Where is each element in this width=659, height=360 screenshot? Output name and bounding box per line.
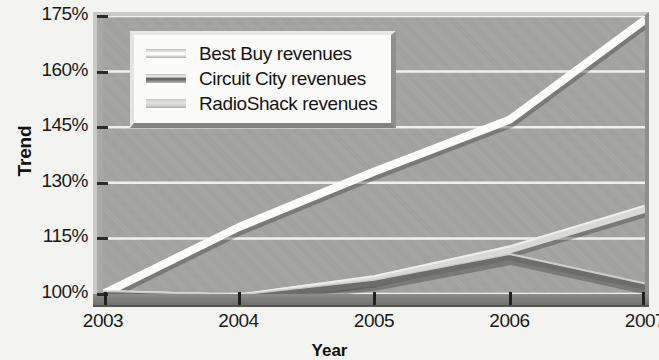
y-tick-mark xyxy=(97,126,108,129)
legend-item: Best Buy revenues xyxy=(146,41,377,66)
legend-item: Circuit City revenues xyxy=(146,66,377,91)
x-tick-mark xyxy=(238,292,241,305)
legend-swatch-icon xyxy=(146,49,186,58)
y-tick-label: 100% xyxy=(26,281,88,303)
y-tick-label: 130% xyxy=(26,170,88,192)
x-axis-bar xyxy=(93,294,649,307)
trend-line-chart: Trend 175%160%145%130%115%100% 200320042… xyxy=(0,0,659,360)
y-tick-mark xyxy=(97,15,108,18)
x-tick-label: 2006 xyxy=(465,310,555,332)
x-tick-mark xyxy=(642,292,645,305)
y-tick-label: 145% xyxy=(26,114,88,136)
legend-item: RadioShack revenues xyxy=(146,91,377,116)
legend-swatch-icon xyxy=(146,74,186,83)
x-axis-title: Year xyxy=(0,341,659,360)
chart-legend: Best Buy revenuesCircuit City revenuesRa… xyxy=(130,31,396,128)
legend-label: Circuit City revenues xyxy=(199,68,366,90)
x-tick-label: 2007 xyxy=(600,310,659,332)
legend-label: RadioShack revenues xyxy=(199,93,377,115)
y-axis-tick-labels: 175%160%145%130%115%100% xyxy=(0,0,88,360)
y-tick-label: 115% xyxy=(26,225,88,247)
x-tick-mark xyxy=(373,292,376,305)
x-tick-mark xyxy=(104,292,107,305)
legend-swatch-icon xyxy=(146,99,186,108)
y-tick-mark xyxy=(97,182,108,185)
legend-label: Best Buy revenues xyxy=(199,43,352,65)
y-tick-label: 160% xyxy=(26,59,88,81)
x-tick-label: 2004 xyxy=(194,310,284,332)
x-tick-label: 2005 xyxy=(329,310,419,332)
x-tick-mark xyxy=(509,292,512,305)
y-tick-mark xyxy=(97,237,108,240)
x-tick-label: 2003 xyxy=(58,310,148,332)
y-tick-label: 175% xyxy=(26,3,88,25)
y-tick-mark xyxy=(97,71,108,74)
